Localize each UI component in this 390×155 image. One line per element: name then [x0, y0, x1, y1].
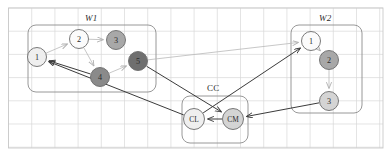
node-label-w2n1: 1 — [309, 37, 313, 46]
node-w2n2: 2 — [320, 51, 339, 70]
node-label-w2n2: 2 — [327, 56, 331, 65]
node-label-w1n1: 1 — [35, 53, 39, 62]
edge-w1n4-to-w1n5 — [109, 66, 126, 73]
edge-w1n4-to-w1n1 — [49, 61, 90, 74]
node-w2n3: 3 — [320, 92, 339, 111]
group-label-w1: W1 — [85, 13, 98, 23]
node-w1n2: 2 — [70, 30, 89, 49]
node-w1n4: 4 — [91, 68, 110, 87]
node-w2n1: 1 — [302, 32, 321, 51]
edge-w2n3-to-ccm — [246, 103, 319, 117]
node-label-ccl: CL — [189, 115, 199, 124]
node-ccm: CM — [223, 109, 244, 130]
edge-ccl-to-w2n1 — [203, 48, 300, 113]
node-ccl: CL — [184, 109, 205, 130]
graph-diagram-figure: 12345CLCM123 W1CCW2 — [0, 0, 390, 155]
edge-w1n5-to-w2n1 — [148, 42, 298, 59]
edge-ccl-to-w1n1 — [49, 62, 184, 115]
diagram-canvas: 12345CLCM123 — [0, 0, 390, 155]
group-label-cc: CC — [207, 83, 220, 93]
edge-w1n1-to-w1n2 — [46, 44, 67, 53]
node-w1n5: 5 — [129, 52, 148, 71]
node-label-w2n3: 3 — [327, 97, 331, 106]
node-w1n3: 3 — [107, 31, 126, 50]
node-w1n1: 1 — [28, 48, 47, 67]
node-label-w1n3: 3 — [114, 36, 118, 45]
group-label-w2: W2 — [319, 13, 332, 23]
node-label-w1n5: 5 — [136, 57, 140, 66]
edge-w2n1-to-w2n2 — [318, 48, 320, 51]
node-label-w1n2: 2 — [77, 35, 81, 44]
node-label-ccm: CM — [227, 115, 239, 124]
node-label-w1n4: 4 — [98, 73, 102, 82]
edge-w1n2-to-w1n4 — [84, 48, 94, 66]
